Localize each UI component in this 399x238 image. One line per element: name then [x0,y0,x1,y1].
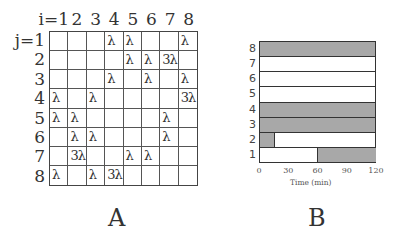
grid-cell [160,166,178,185]
column-header: 7 [161,9,180,29]
grid-cell [124,89,142,108]
x-axis-title: Time (min) [290,178,332,187]
row-header: 7 [0,146,45,166]
y-axis-label: 8 [246,42,256,55]
grid-cell [142,109,160,128]
grid-cell: λ [124,32,142,51]
grid-cell: λ [124,147,142,166]
x-tick-label: 90 [337,166,357,175]
grid-cell [179,166,197,185]
row-header: j=1 [0,30,45,50]
grid-cell [87,32,105,51]
grid-cell [179,51,197,70]
y-axis-label: 4 [246,103,256,116]
grid-cell [50,128,68,147]
grid-cell [68,166,86,185]
row-header: 5 [0,108,45,128]
grid-cell [68,89,86,108]
y-axis-label: 7 [246,57,256,70]
grid-cell: λ [87,89,105,108]
timeline-bar-2 [259,132,376,148]
timeline-bar-1 [259,147,376,163]
grid-cell: λ [160,109,178,128]
grid-cell: λ [68,109,86,128]
grid-cell: λ [160,128,178,147]
grid-cell [87,147,105,166]
timeline-bar-3 [259,117,376,133]
grid-cell [124,128,142,147]
grid-cell [105,89,123,108]
y-axis-label: 1 [246,148,256,161]
panel-a-label: A [108,204,125,232]
x-tick-label: 0 [249,166,269,175]
grid-cell [179,128,197,147]
grid-cell [124,166,142,185]
column-header: 5 [123,9,142,29]
y-axis-label: 6 [246,72,256,85]
grid-cell [142,166,160,185]
grid-cell: λ [105,70,123,89]
grid-cell: λ [50,89,68,108]
shaded-interval [260,118,375,132]
grid-cell: λ [87,128,105,147]
grid-cell: λ [142,147,160,166]
timeline-bar-4 [259,102,376,118]
x-tick-label: 120 [366,166,386,175]
grid-cell [142,89,160,108]
y-axis-label: 3 [246,118,256,131]
grid-cell [124,109,142,128]
y-axis-label: 2 [246,133,256,146]
grid-cell [68,51,86,70]
x-tick-label: 60 [308,166,328,175]
row-header: 3 [0,69,45,89]
timeline-bar-6 [259,71,376,87]
column-header: 6 [142,9,161,29]
grid-cell [160,32,178,51]
grid-cell [179,147,197,166]
grid-cell: 3λ [68,147,86,166]
panel-b-label: B [308,204,326,232]
grid-cell: λ [50,166,68,185]
shaded-interval [260,133,275,147]
grid-cell: λ [87,166,105,185]
grid-cell [105,147,123,166]
shaded-interval [260,103,375,117]
grid-cell [50,70,68,89]
grid-cell [160,89,178,108]
row-header: 8 [0,166,45,186]
y-axis-label: 5 [246,87,256,100]
grid-cell [87,51,105,70]
grid-cell [50,32,68,51]
column-header: 4 [105,9,124,29]
grid-cell: 3λ [105,166,123,185]
grid-cell [124,70,142,89]
grid-cell [87,70,105,89]
column-header: 8 [179,9,198,29]
shaded-interval [260,42,375,56]
timeline-bar-8 [259,41,376,57]
grid-cell: λ [142,51,160,70]
grid-cell [105,51,123,70]
grid-cell [68,70,86,89]
grid-cell: λ [179,70,197,89]
row-header: 6 [0,127,45,147]
grid-cell [68,32,86,51]
grid-cell [87,109,105,128]
timeline-chart [259,41,376,162]
grid-cell [160,70,178,89]
grid-cell [160,147,178,166]
grid-cell [105,109,123,128]
grid-cell [105,128,123,147]
grid-cell: λ [50,109,68,128]
rate-matrix-grid: λλλλλ3λλλλλλ3λλλλλλλ3λλλλλ3λ [49,31,198,186]
grid-cell: λ [124,51,142,70]
column-header: 3 [86,9,105,29]
grid-cell: λ [105,32,123,51]
timeline-bar-7 [259,56,376,72]
grid-cell [142,32,160,51]
row-header: 4 [0,88,45,108]
x-tick-label: 30 [278,166,298,175]
grid-cell: 3λ [160,51,178,70]
column-header: i=1 [29,9,69,29]
column-header: 2 [67,9,86,29]
